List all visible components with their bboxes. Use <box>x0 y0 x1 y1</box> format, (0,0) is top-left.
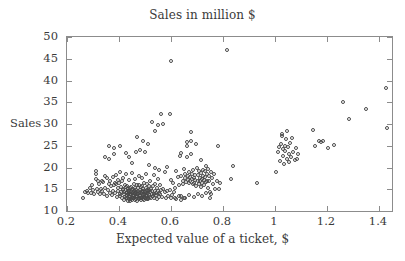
data-point <box>90 183 94 187</box>
y-tick-label: 30 <box>43 116 58 130</box>
data-point <box>130 161 134 165</box>
x-axis-tick <box>223 37 224 42</box>
data-point <box>206 186 210 190</box>
data-point <box>194 142 198 146</box>
data-point <box>290 136 294 140</box>
y-axis-tick <box>387 81 392 82</box>
data-point <box>143 150 147 154</box>
data-point <box>172 190 176 194</box>
y-axis-tick <box>387 37 392 38</box>
plot-area <box>67 37 392 211</box>
y-tick-label: 45 <box>43 51 58 65</box>
data-point <box>177 183 181 187</box>
data-point <box>163 170 167 174</box>
x-tick-label: 1.4 <box>369 214 387 228</box>
data-point <box>127 155 131 159</box>
data-point <box>291 150 295 154</box>
y-axis-tick <box>387 189 392 190</box>
data-point <box>81 196 85 200</box>
data-point <box>189 152 193 156</box>
data-point <box>255 181 259 185</box>
data-point <box>284 137 288 141</box>
data-point <box>107 157 111 161</box>
y-axis-tick <box>387 102 392 103</box>
x-tick-label: 0.8 <box>213 214 231 228</box>
x-axis-tick <box>275 206 276 211</box>
y-axis-tick <box>387 59 392 60</box>
data-point <box>124 172 128 176</box>
data-point <box>187 193 191 197</box>
data-point <box>384 86 388 90</box>
data-point <box>283 149 287 153</box>
data-point <box>148 179 152 183</box>
y-axis-tick <box>67 146 72 147</box>
x-tick-label: 0.2 <box>57 214 75 228</box>
data-point <box>112 152 116 156</box>
y-tick-label: 15 <box>43 181 58 195</box>
data-point <box>295 157 299 161</box>
data-point <box>169 59 173 63</box>
y-tick-label: 10 <box>43 203 58 217</box>
chart-title: Sales in million $ <box>0 8 405 22</box>
data-point <box>199 158 203 162</box>
data-point <box>121 176 125 180</box>
data-point <box>178 154 182 158</box>
y-axis-tick <box>67 102 72 103</box>
y-tick-label: 20 <box>43 160 58 174</box>
data-point <box>311 128 315 132</box>
scatter-plot-figure: Sales in million $ 101520253035404550 Sa… <box>0 0 405 261</box>
data-point <box>285 129 289 133</box>
data-point <box>208 196 212 200</box>
data-point <box>321 139 325 143</box>
data-point <box>168 112 172 116</box>
data-point <box>385 126 389 130</box>
data-point <box>174 169 178 173</box>
data-point <box>364 107 368 111</box>
plot-frame <box>66 36 393 212</box>
x-tick-label: 0.6 <box>161 214 179 228</box>
data-point <box>276 150 280 154</box>
y-axis-tick <box>67 124 72 125</box>
x-axis-tick <box>171 37 172 42</box>
data-point <box>116 178 120 182</box>
y-axis-tick <box>67 81 72 82</box>
y-axis-tick <box>387 168 392 169</box>
data-point <box>133 177 137 181</box>
y-axis-tick <box>387 146 392 147</box>
y-axis-tick <box>67 211 72 212</box>
data-point <box>156 177 160 181</box>
data-point <box>147 163 151 167</box>
data-point <box>287 160 291 164</box>
data-point <box>138 148 142 152</box>
x-axis-tick <box>171 206 172 211</box>
y-tick-label: 50 <box>43 29 58 43</box>
y-axis-tick <box>387 124 392 125</box>
data-point <box>130 171 134 175</box>
data-point <box>278 159 282 163</box>
data-point <box>108 179 112 183</box>
data-point <box>229 177 233 181</box>
data-point <box>289 155 293 159</box>
x-tick-label: 1 <box>270 214 277 228</box>
data-point <box>216 144 220 148</box>
x-axis-tick <box>327 37 328 42</box>
x-axis-tick <box>119 206 120 211</box>
x-axis-tick <box>223 206 224 211</box>
data-point <box>182 167 186 171</box>
data-point <box>211 182 215 186</box>
data-point <box>282 162 286 166</box>
x-axis-tick <box>67 37 68 42</box>
data-point <box>105 194 109 198</box>
data-point <box>347 117 351 121</box>
y-axis-tick <box>67 59 72 60</box>
data-point <box>157 168 161 172</box>
data-point <box>141 139 145 143</box>
data-point <box>118 144 122 148</box>
x-axis-tick <box>327 206 328 211</box>
data-point <box>274 170 278 174</box>
x-tick-label: 0.4 <box>109 214 127 228</box>
data-point <box>192 195 196 199</box>
x-axis-label: Expected value of a ticket, $ <box>0 232 405 246</box>
y-tick-label: 35 <box>43 94 58 108</box>
data-point <box>159 112 163 116</box>
